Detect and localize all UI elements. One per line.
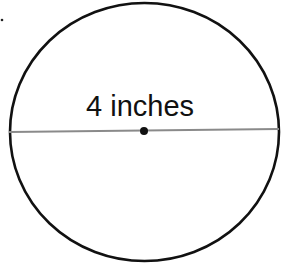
diameter-label: 4 inches <box>86 91 194 121</box>
center-point <box>140 127 148 135</box>
stray-mark <box>1 19 4 22</box>
circle-diagram <box>0 0 287 270</box>
